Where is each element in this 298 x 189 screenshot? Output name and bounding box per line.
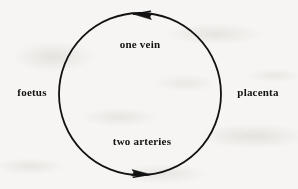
bottom-arrowhead-icon: [132, 170, 151, 178]
label-two-arteries: two arteries: [113, 136, 171, 147]
label-one-vein: one vein: [120, 39, 160, 50]
label-foetus: foetus: [17, 87, 46, 98]
figure-canvas: one vein two arteries foetus placenta: [0, 0, 298, 189]
label-placenta: placenta: [237, 87, 278, 98]
